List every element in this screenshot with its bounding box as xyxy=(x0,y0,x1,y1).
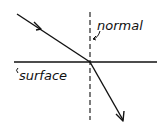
surface-pointer-icon xyxy=(17,68,19,73)
surface-label: surface xyxy=(19,68,67,83)
refracted-ray xyxy=(90,62,123,120)
refraction-diagram: normal surface xyxy=(0,0,168,128)
incident-ray xyxy=(17,14,90,62)
normal-label: normal xyxy=(97,18,143,33)
